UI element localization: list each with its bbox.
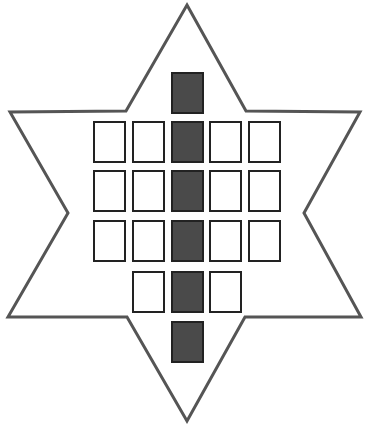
shaded-cell [172, 171, 203, 211]
empty-cell [133, 272, 164, 312]
shaded-cell [172, 221, 203, 261]
shaded-cell [172, 73, 203, 113]
empty-cell [133, 122, 164, 162]
star-diagram [0, 0, 368, 424]
shaded-cell [172, 122, 203, 162]
shaded-cell [172, 322, 203, 362]
empty-cell [94, 221, 125, 261]
shaded-cell [172, 272, 203, 312]
empty-cell [210, 221, 241, 261]
star-grid-figure [0, 0, 368, 424]
empty-cell [249, 122, 280, 162]
empty-cell [249, 221, 280, 261]
empty-cell [94, 171, 125, 211]
empty-cell [94, 122, 125, 162]
empty-cell [133, 171, 164, 211]
empty-cell [210, 272, 241, 312]
empty-cell [210, 122, 241, 162]
empty-cell [249, 171, 280, 211]
empty-cell [210, 171, 241, 211]
empty-cell [133, 221, 164, 261]
